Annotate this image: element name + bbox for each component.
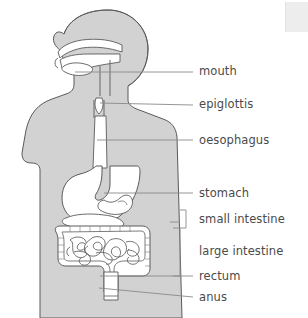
label-small-intestine: small intestine [199,214,285,226]
anatomy-illustration [0,0,308,318]
digestive-system-diagram: mouth epiglottis oesophagus stomach smal… [0,0,308,318]
label-oesophagus: oesophagus [199,135,269,147]
label-anus: anus [199,292,227,304]
label-stomach: stomach [199,188,249,200]
label-epiglottis: epiglottis [199,99,253,111]
label-rectum: rectum [199,271,240,283]
label-mouth: mouth [199,66,237,78]
oesophagus-organ [93,116,107,168]
label-large-intestine: large intestine [199,246,283,258]
